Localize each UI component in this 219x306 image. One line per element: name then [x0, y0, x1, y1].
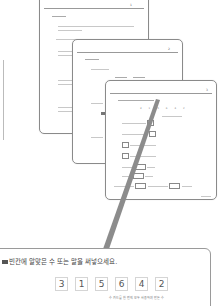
text-line	[58, 51, 72, 52]
digit-card: 4	[135, 277, 148, 291]
image-placeholder	[133, 77, 145, 78]
text-line	[58, 26, 134, 27]
left-edge-page	[0, 60, 4, 140]
footer-text	[201, 196, 211, 197]
digit-card: 2	[155, 277, 168, 291]
text-line	[58, 84, 72, 85]
text-line	[122, 134, 148, 135]
text-line	[122, 167, 134, 168]
text-line	[147, 167, 155, 168]
text-line	[58, 111, 72, 112]
answer-box[interactable]	[135, 183, 146, 189]
answer-box[interactable]	[122, 153, 129, 159]
text-line	[91, 137, 103, 138]
answer-box[interactable]	[135, 164, 146, 170]
digit-card: 3	[55, 277, 68, 291]
answer-box[interactable]	[122, 142, 129, 148]
digit-card: 6	[115, 277, 128, 291]
text-line	[58, 30, 82, 31]
text-line	[91, 69, 109, 70]
text-line	[182, 186, 192, 187]
text-line	[114, 186, 134, 187]
header-rule	[110, 93, 212, 94]
document-page-front: 3 315642	[105, 80, 217, 200]
text-line	[58, 107, 72, 108]
digit-cards: 3 1 5 6 4 2	[55, 277, 168, 291]
text-line	[130, 156, 156, 157]
header-rule	[44, 8, 144, 9]
header-rule	[77, 52, 178, 53]
answer-box[interactable]	[149, 131, 156, 137]
text-line	[122, 123, 146, 124]
text-line	[91, 103, 103, 104]
text-line	[58, 80, 72, 81]
digit-row: 315642	[140, 107, 192, 110]
text-line	[148, 186, 168, 187]
text-line	[130, 145, 156, 146]
answer-box[interactable]	[133, 173, 144, 179]
digit-card: 1	[75, 277, 88, 291]
text-line	[122, 176, 132, 177]
text-line	[145, 176, 153, 177]
image-placeholder	[115, 77, 127, 78]
instruction-line	[118, 100, 154, 101]
text-line	[58, 55, 72, 56]
instruction-text: 빈칸에 알맞은 수 또는 말을 써넣으세요.	[2, 256, 117, 266]
question-marker-icon	[2, 260, 8, 264]
caption-text: 수 카드를 한 번씩 모두 사용하여 만든 수	[109, 296, 164, 300]
page-number: 3	[206, 88, 208, 92]
answer-box[interactable]	[147, 120, 154, 126]
caption-line	[162, 116, 182, 117]
digit-card: 5	[95, 277, 108, 291]
zoomed-callout: 빈칸에 알맞은 수 또는 말을 써넣으세요. 3 1 5 6 4 2 수 카드를…	[0, 248, 211, 306]
answer-box[interactable]	[169, 183, 180, 189]
page-number: 2	[168, 47, 170, 51]
text-line	[52, 16, 66, 17]
text-line	[85, 59, 99, 60]
page-number: 1	[130, 3, 132, 7]
